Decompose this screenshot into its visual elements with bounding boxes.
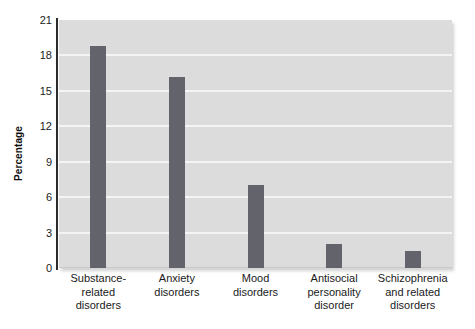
y-tick-label: 15	[40, 85, 52, 97]
x-tick-label: Antisocialpersonalitydisorder	[291, 272, 377, 313]
y-tick-label: 18	[40, 49, 52, 61]
y-axis-title-text: Percentage	[13, 126, 24, 181]
x-tick-label-line: disorders	[213, 286, 299, 300]
x-tick-label-line: personality	[291, 286, 377, 300]
y-tick-label: 9	[46, 156, 52, 168]
x-tick-label: Schizophreniaand relateddisorders	[370, 272, 456, 313]
y-axis-tick-labels: 036912151821	[26, 20, 52, 268]
x-tick-label-line: disorders	[55, 299, 141, 313]
y-tick-label: 6	[46, 191, 52, 203]
x-tick-label: Substance-relateddisorders	[55, 272, 141, 313]
x-tick-label-line: disorders	[370, 299, 456, 313]
x-tick-label: Anxietydisorders	[134, 272, 220, 299]
bar[interactable]	[326, 244, 342, 268]
bar[interactable]	[405, 251, 421, 268]
x-tick-label-line: Substance-	[55, 272, 141, 286]
x-tick-label-line: Anxiety	[134, 272, 220, 286]
gridline	[59, 161, 452, 163]
x-tick-label-line: and related	[370, 286, 456, 300]
y-tick-label: 12	[40, 120, 52, 132]
y-axis-line	[56, 18, 58, 270]
bar-chart-figure: Percentage 036912151821 Substance-relate…	[0, 0, 475, 329]
gridline	[59, 90, 452, 92]
bar[interactable]	[169, 77, 185, 268]
plot-area	[59, 20, 452, 268]
x-tick-label-line: Schizophrenia	[370, 272, 456, 286]
bar[interactable]	[248, 185, 264, 268]
x-tick-label-line: disorder	[291, 299, 377, 313]
bar[interactable]	[90, 46, 106, 268]
gridline	[59, 125, 452, 127]
x-tick-label: Mooddisorders	[213, 272, 299, 299]
x-tick-label-line: Antisocial	[291, 272, 377, 286]
x-tick-label-line: related	[55, 286, 141, 300]
x-axis-tick-labels: Substance-relateddisordersAnxietydisorde…	[59, 272, 452, 328]
y-tick-label: 0	[46, 262, 52, 274]
y-tick-label: 21	[40, 14, 52, 26]
y-tick-label: 3	[46, 227, 52, 239]
x-tick-label-line: disorders	[134, 286, 220, 300]
x-tick-label-line: Mood	[213, 272, 299, 286]
gridline	[59, 54, 452, 56]
